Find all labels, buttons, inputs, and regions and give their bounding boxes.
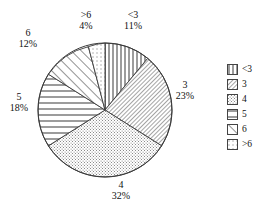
legend-item-5[interactable]: 5: [227, 107, 276, 121]
legend-item-lt3[interactable]: <3: [227, 62, 276, 76]
pie-label-gt6: >6 4%: [69, 10, 103, 32]
diagonal-lines-swatch: [227, 124, 238, 135]
diagonal-hatch-swatch: [227, 79, 238, 90]
pie-label-lt3: <3 11%: [113, 10, 153, 32]
horizontal-lines-swatch: [227, 109, 238, 120]
pie-label-3: 3 23%: [170, 80, 200, 102]
pie-label-6: 6 12%: [10, 28, 46, 50]
legend-item-6[interactable]: 6: [227, 122, 276, 136]
pie-label-5: 5 18%: [2, 92, 36, 114]
legend-label: 4: [242, 94, 247, 104]
chart-legend: <3 3 4 5 6: [227, 62, 276, 152]
vertical-lines-swatch: [227, 64, 238, 75]
sparse-dots-swatch: [227, 139, 238, 150]
legend-item-gt6[interactable]: >6: [227, 137, 276, 151]
legend-label: >6: [242, 139, 252, 149]
legend-label: <3: [242, 64, 252, 74]
pie-label-4: 4 32%: [104, 180, 138, 202]
legend-label: 5: [242, 109, 247, 119]
pie-chart-area: <3 11% 3 23% 4 32% 5 18% 6 12% >6 4%: [0, 0, 200, 212]
legend-item-3[interactable]: 3: [227, 77, 276, 91]
legend-item-4[interactable]: 4: [227, 92, 276, 106]
legend-label: 6: [242, 124, 247, 134]
legend-label: 3: [242, 79, 247, 89]
fine-dots-swatch: [227, 94, 238, 105]
chart-figure: <3 11% 3 23% 4 32% 5 18% 6 12% >6 4%: [0, 0, 276, 212]
